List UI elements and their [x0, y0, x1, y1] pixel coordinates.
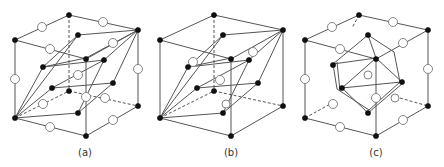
panel-c-label: (c): [361, 147, 391, 158]
panel-b-diagram: [157, 12, 285, 138]
panel-a-label: (a): [70, 147, 100, 158]
crystal-lattice-figure: [0, 0, 444, 167]
panel-b-label: (b): [216, 147, 246, 158]
panel-a-diagram: [11, 12, 143, 138]
panel-c-diagram: [301, 12, 433, 138]
